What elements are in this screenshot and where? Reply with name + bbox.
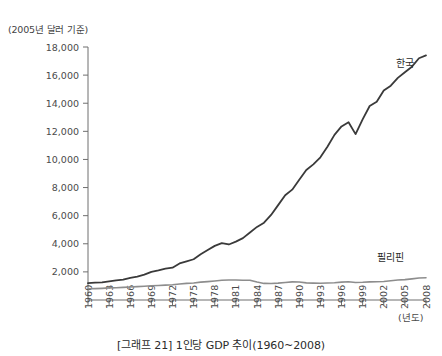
- x-axis-tick-label: 1984: [252, 285, 263, 309]
- y-axis-tick-label: 2,000: [52, 266, 79, 277]
- x-axis-tick-label: 2005: [399, 285, 410, 309]
- x-axis-tick-label: 2002: [378, 285, 389, 309]
- x-axis-tick-label: 1987: [273, 285, 284, 309]
- x-axis-ticks: 1960196319661969197219751978198119841987…: [83, 285, 432, 309]
- y-axis-tick-label: 10,000: [46, 154, 79, 165]
- x-axis-tick-label: 1981: [230, 285, 241, 309]
- chart-series-labels: 한국필리핀: [377, 58, 414, 263]
- y-axis-tick-label: 18,000: [46, 42, 79, 53]
- series-line: [88, 55, 426, 283]
- x-axis-tick-label: 1990: [294, 285, 305, 309]
- x-axis-unit-label: (년도): [398, 312, 423, 323]
- chart-caption: [그래프 21] 1인당 GDP 추이(1960~2008): [0, 336, 442, 352]
- chart-plot-svg: 2,0004,0006,0008,00010,00012,00014,00016…: [0, 0, 442, 336]
- series-label: 한국: [396, 58, 414, 69]
- x-axis-tick-label: 1978: [209, 285, 220, 309]
- x-axis-tick-label: 1972: [167, 285, 178, 309]
- x-axis-tick-label: 1969: [146, 285, 157, 309]
- chart-series-lines: [88, 55, 426, 288]
- x-axis-tick-label: 1975: [188, 285, 199, 309]
- x-axis-tick-label: 2008: [421, 285, 432, 309]
- chart-axes: [88, 47, 426, 300]
- x-axis-tick-label: 1999: [357, 285, 368, 309]
- y-axis-tick-label: 14,000: [46, 98, 79, 109]
- series-label: 필리핀: [377, 252, 404, 263]
- y-axis-tick-label: 6,000: [52, 210, 79, 221]
- y-axis-ticks: 2,0004,0006,0008,00010,00012,00014,00016…: [46, 42, 88, 278]
- y-axis-tick-label: 12,000: [46, 126, 79, 137]
- y-axis-tick-label: 4,000: [52, 238, 79, 249]
- y-axis-tick-label: 16,000: [46, 70, 79, 81]
- gdp-per-capita-chart-figure: (2005년 달러 기준) 2,0004,0006,0008,00010,000…: [0, 0, 442, 356]
- x-axis-tick-label: 1966: [125, 285, 136, 309]
- x-axis-tick-label: 1993: [315, 285, 326, 309]
- x-axis-tick-label: 1996: [336, 285, 347, 309]
- y-axis-tick-label: 8,000: [52, 182, 79, 193]
